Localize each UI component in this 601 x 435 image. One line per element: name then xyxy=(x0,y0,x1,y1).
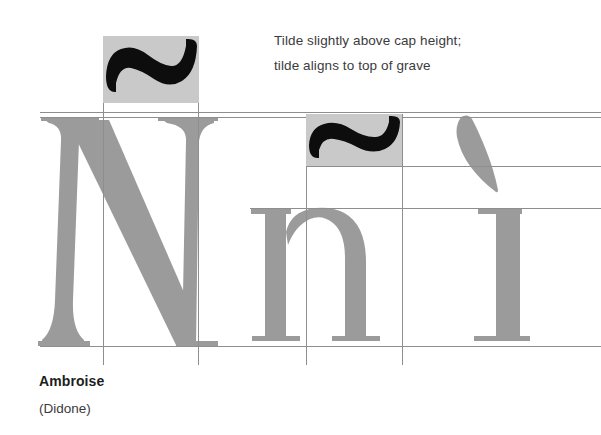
tilde-box-uppercase xyxy=(103,36,199,103)
tilde-glyph-uppercase xyxy=(103,36,199,103)
guide-baseline xyxy=(40,346,601,347)
typeface-classification: (Didone) xyxy=(39,399,104,418)
tilde-glyph-lowercase xyxy=(306,114,402,166)
guide-grave-top-alignment-line xyxy=(306,166,601,167)
accent-grave xyxy=(457,115,499,192)
guide-x-height-line xyxy=(250,208,601,209)
glyph-lowercase-n xyxy=(251,208,380,341)
annotation-text: Tilde slightly above cap height; tilde a… xyxy=(274,28,594,78)
guide-tilde-top-line xyxy=(40,112,601,113)
annotation-line-2: tilde aligns to top of grave xyxy=(274,53,594,78)
glyph-lowercase-i xyxy=(474,209,530,341)
glyph-capital-n xyxy=(38,117,218,346)
specimen-caption: Ambroise (Didone) xyxy=(39,372,104,418)
typeface-name: Ambroise xyxy=(39,372,104,391)
tilde-box-lowercase xyxy=(306,114,402,166)
specimen-diagram: Tilde slightly above cap height; tilde a… xyxy=(0,0,601,435)
annotation-line-1: Tilde slightly above cap height; xyxy=(274,28,594,53)
guide-vertical-4 xyxy=(402,114,403,365)
